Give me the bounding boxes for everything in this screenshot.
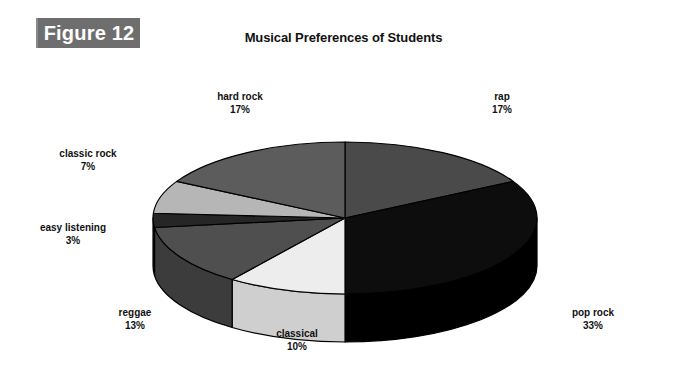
slice-label-hard-rock-value: 17% (185, 104, 295, 117)
slice-label-reggae: reggae 13% (80, 307, 190, 332)
slice-label-easy-listening-value: 3% (8, 235, 138, 248)
slice-label-hard-rock: hard rock 17% (185, 91, 295, 116)
slice-label-hard-rock-name: hard rock (185, 91, 295, 104)
slice-label-reggae-name: reggae (80, 307, 190, 320)
slice-label-classic-rock: classic rock 7% (28, 148, 148, 173)
slice-label-pop-rock-value: 33% (533, 320, 653, 333)
slice-label-rap: rap 17% (447, 91, 557, 116)
slice-label-rap-name: rap (447, 91, 557, 104)
pie-slices-group (153, 142, 537, 342)
slice-label-easy-listening-name: easy listening (8, 222, 138, 235)
slice-label-pop-rock: pop rock 33% (533, 307, 653, 332)
slice-label-classical-value: 10% (237, 341, 357, 354)
slice-label-rap-value: 17% (447, 104, 557, 117)
slice-label-easy-listening: easy listening 3% (8, 222, 138, 247)
slice-label-classic-rock-value: 7% (28, 161, 148, 174)
slice-label-classic-rock-name: classic rock (28, 148, 148, 161)
slice-label-classical: classical 10% (237, 328, 357, 353)
slice-label-pop-rock-name: pop rock (533, 307, 653, 320)
slice-label-classical-name: classical (237, 328, 357, 341)
slice-label-reggae-value: 13% (80, 320, 190, 333)
figure-page: Figure 12 Musical Preferences of Student… (0, 0, 687, 381)
